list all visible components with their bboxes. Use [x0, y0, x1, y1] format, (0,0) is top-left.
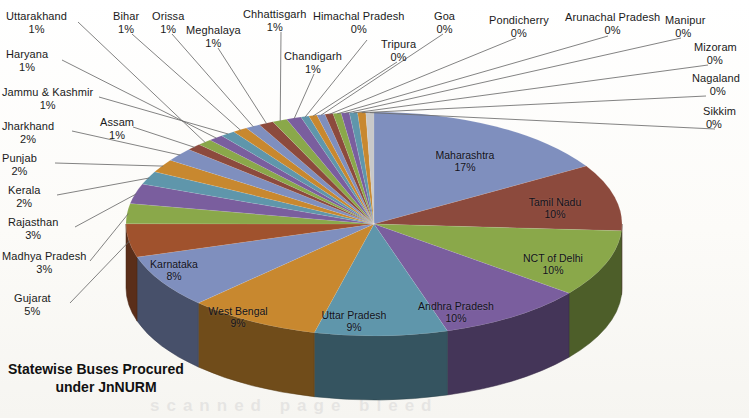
- slice-label-arunachal-pradesh-value: 0%: [565, 24, 660, 37]
- slice-label-manipur: Manipur 0%: [665, 14, 705, 39]
- pie-top-faces: [126, 112, 622, 336]
- slice-label-himachal-pradesh-value: 0%: [313, 23, 404, 36]
- slice-label-chhattisgarh-value: 1%: [243, 21, 307, 34]
- slice-label-haryana-name: Haryana: [6, 48, 48, 61]
- slice-label-meghalaya-name: Meghalaya: [186, 24, 241, 37]
- slice-label-chandigarh-value: 1%: [284, 63, 342, 76]
- chart-title-line2: under JnNURM: [8, 378, 238, 396]
- slice-inlabel-west-bengal-name: West Bengal: [208, 305, 267, 317]
- slice-label-orissa: Orissa 1%: [152, 10, 184, 35]
- slice-label-bihar: Bihar 1%: [113, 10, 139, 35]
- slice-inlabel-nct-of-delhi-name: NCT of Delhi: [523, 252, 583, 264]
- slice-label-chhattisgarh-name: Chhattisgarh: [243, 8, 307, 21]
- slice-label-pondicherry: Pondicherry 0%: [489, 14, 549, 39]
- slice-inlabel-tamil-nadu: Tamil Nadu 10%: [500, 196, 610, 220]
- slice-label-chandigarh-name: Chandigarh: [284, 50, 342, 63]
- slice-label-sikkim-name: Sikkim: [703, 105, 736, 118]
- slice-inlabel-tamil-nadu-name: Tamil Nadu: [529, 196, 582, 208]
- slice-inlabel-karnataka-name: Karnataka: [150, 258, 198, 270]
- chart-title-line1: Statewise Buses Procured: [8, 360, 238, 378]
- slice-label-rajasthan-name: Rajasthan: [8, 216, 58, 229]
- slice-label-himachal-pradesh-name: Himachal Pradesh: [313, 10, 404, 23]
- pie-chart-graphic: [0, 0, 749, 418]
- slice-label-orissa-value: 1%: [152, 23, 184, 36]
- slice-label-mizoram: Mizoram 0%: [694, 41, 737, 66]
- slice-inlabel-maharashtra-value: 17%: [454, 161, 475, 173]
- slice-label-uttarakhand-name: Uttarakhand: [6, 10, 67, 23]
- slice-label-arunachal-pradesh-name: Arunachal Pradesh: [565, 11, 660, 24]
- slice-label-orissa-name: Orissa: [152, 10, 184, 23]
- slice-label-arunachal-pradesh: Arunachal Pradesh 0%: [565, 11, 660, 36]
- slice-inlabel-karnataka-value: 8%: [166, 270, 181, 282]
- slice-label-madhya-pradesh: Madhya Pradesh 3%: [2, 250, 87, 275]
- slice-label-bihar-value: 1%: [113, 23, 139, 36]
- slice-label-punjab: Punjab 2%: [2, 152, 37, 177]
- slice-inlabel-karnataka: Karnataka 8%: [124, 258, 224, 282]
- slice-label-haryana: Haryana 1%: [6, 48, 48, 73]
- slice-label-rajasthan: Rajasthan 3%: [8, 216, 58, 241]
- slice-label-chhattisgarh: Chhattisgarh 1%: [243, 8, 307, 33]
- slice-label-uttarakhand-value: 1%: [6, 23, 67, 36]
- leader-line: [90, 214, 128, 261]
- slice-label-assam: Assam 1%: [100, 116, 134, 141]
- slice-label-jammu-kashmir-name: Jammu & Kashmir: [2, 86, 93, 99]
- slice-label-nagaland-value: 0%: [692, 85, 740, 98]
- slice-inlabel-tamil-nadu-value: 10%: [544, 208, 565, 220]
- chart-title: Statewise Buses Procured under JnNURM: [8, 360, 238, 396]
- slice-label-uttarakhand: Uttarakhand 1%: [6, 10, 67, 35]
- slice-label-gujarat-value: 5%: [14, 305, 51, 318]
- slice-inlabel-maharashtra-name: Maharashtra: [436, 149, 495, 161]
- slice-label-himachal-pradesh: Himachal Pradesh 0%: [313, 10, 404, 35]
- slice-inlabel-nct-of-delhi: NCT of Delhi 10%: [497, 252, 609, 276]
- slice-inlabel-uttar-pradesh-value: 9%: [346, 321, 361, 333]
- slice-label-punjab-name: Punjab: [2, 152, 37, 165]
- slice-inlabel-west-bengal: West Bengal 9%: [186, 305, 290, 329]
- slice-label-meghalaya: Meghalaya 1%: [186, 24, 241, 49]
- slice-label-gujarat: Gujarat 5%: [14, 292, 51, 317]
- slice-label-kerala-value: 2%: [8, 197, 40, 210]
- slice-label-manipur-name: Manipur: [665, 14, 705, 27]
- slice-label-nagaland: Nagaland 0%: [692, 72, 740, 97]
- slice-label-assam-name: Assam: [100, 116, 134, 129]
- slice-label-mizoram-name: Mizoram: [694, 41, 737, 54]
- slice-label-goa-value: 0%: [434, 23, 455, 36]
- slice-label-madhya-pradesh-value: 3%: [2, 263, 87, 276]
- slice-label-gujarat-name: Gujarat: [14, 292, 51, 305]
- slice-label-nagaland-name: Nagaland: [692, 72, 740, 85]
- slice-inlabel-uttar-pradesh: Uttar Pradesh 9%: [301, 309, 407, 333]
- slice-label-tripura-value: 0%: [381, 51, 416, 64]
- slice-label-sikkim-value: 0%: [703, 118, 736, 131]
- slice-inlabel-andhra-pradesh: Andhra Pradesh 10%: [398, 300, 514, 324]
- slice-inlabel-nct-of-delhi-value: 10%: [542, 264, 563, 276]
- slice-label-punjab-value: 2%: [2, 165, 37, 178]
- slice-label-kerala: Kerala 2%: [8, 184, 40, 209]
- slice-label-sikkim: Sikkim 0%: [703, 105, 736, 130]
- slice-label-tripura-name: Tripura: [381, 38, 416, 51]
- leader-line: [362, 96, 706, 113]
- leader-line: [218, 48, 267, 124]
- leader-line: [294, 74, 314, 119]
- leader-line: [354, 65, 708, 113]
- slice-inlabel-andhra-pradesh-value: 10%: [445, 312, 466, 324]
- slice-label-jammu-kashmir-value: 1%: [2, 99, 93, 112]
- slice-label-rajasthan-value: 3%: [8, 229, 58, 242]
- slice-label-jharkhand: Jharkhand 2%: [2, 120, 54, 145]
- slice-label-mizoram-value: 0%: [694, 54, 737, 67]
- slice-inlabel-uttar-pradesh-name: Uttar Pradesh: [322, 309, 387, 321]
- slice-label-bihar-name: Bihar: [113, 10, 139, 23]
- slice-inlabel-west-bengal-value: 9%: [230, 317, 245, 329]
- slice-label-meghalaya-value: 1%: [186, 37, 241, 50]
- leader-line: [280, 32, 281, 121]
- slice-label-kerala-name: Kerala: [8, 184, 40, 197]
- leader-line: [57, 178, 149, 195]
- leader-line: [133, 127, 195, 147]
- slice-inlabel-andhra-pradesh-name: Andhra Pradesh: [418, 300, 494, 312]
- slice-label-assam-value: 1%: [100, 129, 134, 142]
- slice-label-jharkhand-value: 2%: [2, 133, 54, 146]
- slice-label-chandigarh: Chandigarh 1%: [284, 50, 342, 75]
- slice-label-pondicherry-value: 0%: [489, 27, 549, 40]
- slice-label-haryana-value: 1%: [6, 61, 48, 74]
- slice-label-jharkhand-name: Jharkhand: [2, 120, 54, 133]
- slice-label-goa: Goa 0%: [434, 10, 455, 35]
- slice-label-jammu-kashmir: Jammu & Kashmir 1%: [2, 86, 93, 111]
